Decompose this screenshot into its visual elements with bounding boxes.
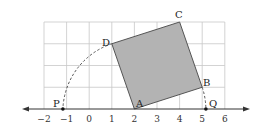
svg-text:−1: −1 <box>60 114 73 124</box>
svg-text:−2: −2 <box>37 114 50 124</box>
svg-text:5: 5 <box>199 114 205 124</box>
label-q: Q <box>209 98 217 109</box>
arc-b-to-q <box>202 87 206 109</box>
label-c: C <box>175 9 183 20</box>
label-b: B <box>203 77 210 88</box>
svg-text:2: 2 <box>132 114 138 124</box>
svg-text:6: 6 <box>222 114 228 124</box>
point-q <box>204 107 208 111</box>
point-p <box>61 107 65 111</box>
svg-text:1: 1 <box>109 114 115 124</box>
label-a: A <box>135 98 144 109</box>
label-d: D <box>102 37 110 48</box>
arc-d-to-p <box>63 44 112 109</box>
svg-text:4: 4 <box>177 114 183 124</box>
tick-labels: −2 −1 0 1 2 3 4 5 6 <box>37 114 228 124</box>
label-p: P <box>53 98 60 109</box>
square-abcd <box>112 22 202 109</box>
number-line-diagram: −2 −1 0 1 2 3 4 5 6 A B C D P Q <box>0 0 254 130</box>
svg-text:3: 3 <box>154 114 160 124</box>
svg-text:0: 0 <box>86 114 92 124</box>
